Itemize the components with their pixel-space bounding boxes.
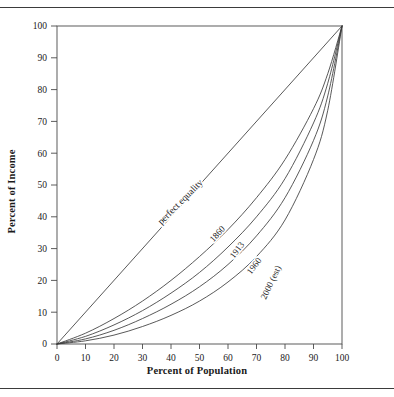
y-axis-tick-label: 100 bbox=[33, 21, 48, 31]
y-axis-title: Percent of Income bbox=[6, 132, 17, 252]
x-axis-title: Percent of Population bbox=[0, 365, 394, 376]
x-axis-tick-label: 10 bbox=[81, 353, 91, 363]
y-axis-tick-label: 20 bbox=[38, 276, 48, 286]
x-axis-tick-label: 80 bbox=[280, 353, 290, 363]
figure-page: 0102030405060708090100010203040506070809… bbox=[0, 0, 394, 397]
y-axis-tick-label: 80 bbox=[38, 85, 48, 95]
y-axis-tick-label: 60 bbox=[38, 149, 48, 159]
y-axis-tick-label: 70 bbox=[38, 117, 48, 127]
x-axis-tick-label: 20 bbox=[109, 353, 119, 363]
x-axis-tick-label: 30 bbox=[138, 353, 148, 363]
y-axis-tick-label: 40 bbox=[38, 212, 48, 222]
bottom-horizontal-rule bbox=[0, 388, 394, 389]
y-axis-tick-label: 0 bbox=[42, 339, 47, 349]
curve-label-perfect-equality: perfect equality bbox=[156, 177, 205, 226]
x-axis-tick-label: 0 bbox=[55, 353, 60, 363]
y-axis-tick-label: 50 bbox=[38, 180, 48, 190]
lorenz-curve-figure: 0102030405060708090100010203040506070809… bbox=[0, 8, 394, 388]
y-axis-tick-label: 10 bbox=[38, 308, 48, 318]
curve-label-2000-est-: 2000 (est) bbox=[259, 264, 284, 301]
curve-label-1960: 1960 bbox=[245, 255, 264, 276]
chart-plot-area: 0102030405060708090100010203040506070809… bbox=[0, 8, 394, 388]
x-axis-tick-label: 70 bbox=[252, 353, 262, 363]
x-axis-tick-label: 50 bbox=[195, 353, 205, 363]
x-axis-tick-label: 40 bbox=[166, 353, 176, 363]
x-axis-tick-label: 90 bbox=[309, 353, 319, 363]
y-axis-tick-label: 30 bbox=[38, 244, 48, 254]
x-axis-tick-label: 60 bbox=[223, 353, 233, 363]
y-axis-tick-label: 90 bbox=[38, 53, 48, 63]
x-axis-tick-label: 100 bbox=[335, 353, 350, 363]
curve-labels-group: perfect equalityperfect equality18601860… bbox=[156, 177, 283, 301]
